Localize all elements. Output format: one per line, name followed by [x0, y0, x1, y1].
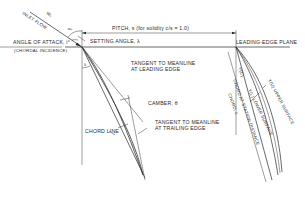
tangent-leading-label-2: AT LEADING EDGE [131, 66, 181, 72]
setting-angle-leader [78, 36, 85, 41]
angle-of-attack-label: ANGLE OF ATTACK, i° [13, 39, 70, 45]
leading-edge-plane-label: LEADING-EDGE PLANE [236, 39, 298, 45]
inlet-flow-label: INLET FLOW [21, 11, 48, 31]
pitch-arrow-left [82, 32, 86, 34]
chordal-incidence-label: (CHORDAL INCIDENCE) [14, 48, 68, 53]
yc-label: Y(C) [237, 67, 245, 78]
cascade-diagram: INLET FLOW W₁ α₁ PITCH, s (for solidity … [0, 0, 305, 199]
w1-label: W₁ [45, 11, 53, 19]
alpha1-label: α₁ [68, 26, 73, 31]
right-upper-leader [263, 85, 266, 88]
chord-c-label: CHORD, c [227, 93, 240, 116]
chord-line-label: CHORD LINE [85, 128, 119, 134]
alpha1-arc [68, 31, 82, 37]
camber-label: CAMBER, θ [148, 100, 178, 106]
pitch-arrow-right [232, 32, 236, 34]
tangent-trailing-leader [138, 128, 147, 134]
lambda-label: λ [84, 62, 87, 67]
yu-upper-surface-label: Y(U) UPPER SURFACE [267, 78, 295, 125]
tangent-trailing-label-2: AT TRAILING EDGE [155, 125, 206, 131]
setting-angle-label: SETTING ANGLE, λ [90, 38, 140, 44]
pitch-label: PITCH, s (for solidity c/s = 1.0) [112, 25, 189, 31]
